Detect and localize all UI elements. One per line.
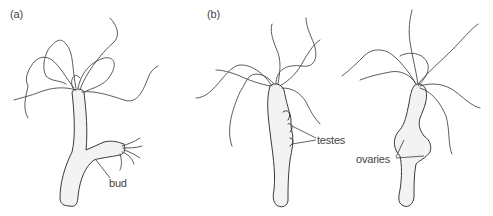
hydra-female: [342, 10, 480, 207]
annotation-ovaries: ovaries: [356, 153, 390, 165]
hydra-body-female: [394, 84, 430, 207]
hydra-with-bud: [14, 18, 158, 206]
hydra-diagram: [0, 0, 493, 216]
panel-label-a: (a): [10, 8, 23, 20]
hydra-body-male: [268, 84, 293, 207]
hydra-male: [196, 18, 320, 207]
panel-label-b: (b): [207, 8, 220, 20]
annotation-testes: testes: [317, 134, 345, 146]
annotation-bud: bud: [109, 177, 127, 189]
